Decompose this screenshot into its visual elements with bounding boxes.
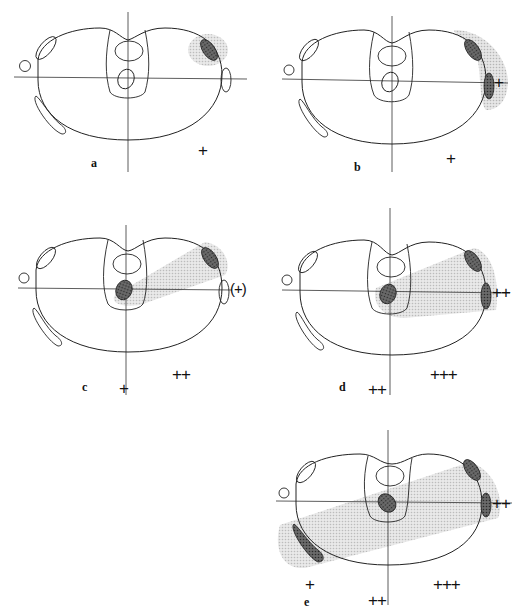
panel-label: a [91, 156, 97, 171]
sign-right-lower: + [198, 142, 207, 159]
sign-lateral: ++ [492, 495, 510, 512]
cross-section-diagram [0, 0, 264, 200]
lesion-lateral [484, 73, 494, 99]
lower-oval [115, 67, 137, 91]
sign-center-lower: ++ [368, 381, 386, 398]
panel-label: c [82, 380, 87, 395]
sign-lateral: ++ [492, 284, 510, 301]
left-upper-organ [295, 248, 321, 276]
upper-oval [115, 41, 143, 61]
upper-oval [376, 466, 404, 486]
horizontal-axis [282, 79, 508, 83]
right-organ [219, 280, 229, 304]
sign-right-lower: + [446, 150, 455, 167]
shaded-region [454, 30, 508, 110]
panel-label: b [354, 160, 361, 175]
small-circle [19, 273, 29, 283]
sign-center-lower: ++ [368, 592, 386, 609]
panel-d: d ++ +++ ++ [264, 200, 528, 400]
left-lower-organ [35, 96, 66, 134]
left-upper-organ [296, 36, 322, 64]
small-circle [279, 488, 289, 498]
left-upper-organ [32, 33, 59, 62]
panel-c: c (+) ++ + [0, 200, 264, 400]
cross-section-diagram [260, 400, 528, 615]
sign-center-lower: + [119, 380, 128, 397]
sign-right-lower: ++ [172, 366, 190, 383]
upper-oval [113, 254, 141, 274]
left-lower-organ [296, 312, 324, 350]
sign-right-lower: +++ [433, 576, 460, 593]
panel-label: d [339, 380, 346, 395]
left-upper-organ [33, 244, 59, 272]
horizontal-axis [14, 77, 247, 79]
left-upper-organ [293, 458, 319, 486]
small-circle [20, 61, 31, 72]
small-circle [282, 275, 292, 285]
cross-section-diagram [0, 200, 264, 400]
right-organ [221, 68, 231, 92]
left-lower-organ [299, 99, 328, 137]
lower-oval [379, 70, 401, 94]
left-lower-organ [33, 308, 62, 346]
lesion-lateral [481, 493, 491, 517]
sign-lateral: (+) [230, 281, 246, 296]
panel-label: e [304, 595, 309, 610]
small-circle [284, 65, 294, 75]
lesion-lateral [481, 283, 491, 309]
panel-b: b + + [264, 0, 528, 200]
panel-a: a + [0, 0, 264, 200]
cross-section-diagram [264, 0, 528, 200]
sign-lateral: + [494, 74, 503, 91]
cross-section-diagram [264, 200, 528, 400]
sign-right-lower: +++ [430, 366, 457, 383]
body-outline [302, 30, 486, 144]
sign-left-lower: + [305, 576, 314, 593]
panel-e: e ++ + +++ ++ [260, 400, 528, 615]
upper-oval [377, 257, 405, 277]
